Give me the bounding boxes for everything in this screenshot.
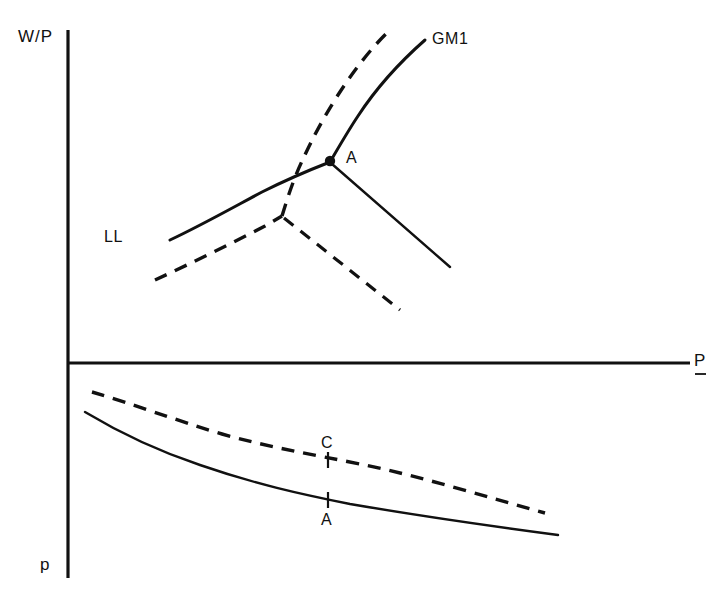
ll-curve-label: LL <box>104 229 123 245</box>
x-axis-right-label: P <box>694 352 705 369</box>
dashed-lower-left-branch <box>155 216 282 280</box>
solid-descending-branch <box>332 164 450 267</box>
dashed-curve-c <box>92 392 545 513</box>
point-a-marker <box>325 156 335 166</box>
diagram-canvas <box>0 0 727 603</box>
figure-root: W/P P p LL GM1 A C A <box>0 0 727 603</box>
y-axis-top-label: W/P <box>18 28 53 45</box>
y-axis-bottom-label: p <box>40 556 49 573</box>
point-c-lower-label: C <box>321 435 333 451</box>
point-a-upper-label: A <box>346 150 357 166</box>
ll-solid-curve <box>170 162 330 240</box>
dashed-rising-branch <box>282 30 390 216</box>
point-a-lower-label: A <box>321 512 332 528</box>
upper-panel-curves <box>155 30 450 310</box>
gm1-solid-curve <box>330 40 425 162</box>
gm1-curve-label: GM1 <box>432 31 468 47</box>
axes-group <box>68 30 690 578</box>
dashed-descending-branch <box>284 218 400 310</box>
